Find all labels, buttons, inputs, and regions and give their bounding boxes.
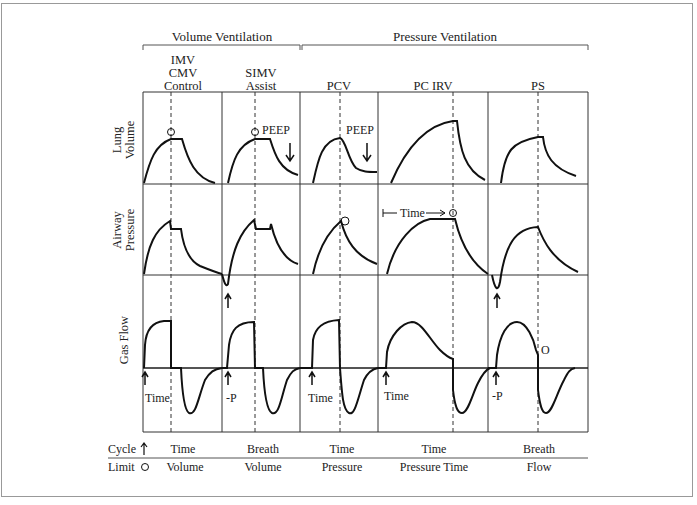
time-span-annotation: Time	[383, 206, 445, 220]
trigger-label-pc-irv: Time	[384, 389, 409, 403]
limit-value-pcv: Pressure	[322, 460, 363, 474]
limit-marker-pcv	[341, 217, 349, 225]
mode-label-assist: Assist	[246, 79, 277, 93]
cycle-value-simv: Breath	[247, 442, 279, 456]
cycle-value-imv: Time	[171, 442, 196, 456]
group-label-volume: Volume Ventilation	[172, 29, 273, 44]
trigger-arrow-pc-irv-icon	[383, 372, 389, 385]
mode-label-cmv: CMV	[169, 66, 197, 80]
time-span-arrow-icon	[426, 210, 445, 216]
airway-pressure-curve-pcv	[313, 221, 377, 274]
svg-text:Volume: Volume	[123, 120, 137, 159]
trigger-label-imv: Time	[145, 391, 170, 405]
limit-value-pc-irv: Pressure Time	[400, 460, 468, 474]
lung-volume-curve-imv	[144, 139, 215, 183]
lung-volume-curve-pc-irv	[391, 121, 485, 183]
trigger-label-ps: -P	[492, 389, 503, 403]
time-span-label: Time	[400, 206, 425, 220]
svg-text:Gas Flow: Gas Flow	[117, 316, 131, 364]
gas-flow-curves	[144, 320, 575, 413]
limit-markers-volume	[168, 129, 259, 136]
trigger-arrow-simv-flow-icon	[225, 372, 231, 385]
svg-text:Pressure: Pressure	[123, 208, 137, 251]
peep-arrow-pcv-icon	[363, 143, 371, 161]
cycle-label: Cycle	[108, 442, 136, 456]
mode-label-ps: PS	[531, 79, 545, 93]
row-label-gas-flow: Gas Flow	[117, 316, 131, 364]
cycle-value-ps: Breath	[523, 442, 555, 456]
limit-label: Limit	[108, 460, 135, 474]
row-label-airway-pressure: Airway Pressure	[110, 208, 137, 251]
airway-pressure-curves	[144, 219, 578, 288]
trigger-arrow-ps-flow-icon	[493, 372, 499, 385]
svg-text:Lung: Lung	[110, 126, 124, 153]
cycle-dashed-lines	[171, 92, 538, 432]
mode-label-simv: SIMV	[245, 66, 276, 80]
cycle-value-pcv: Time	[330, 442, 355, 456]
trigger-label-simv: -P	[226, 391, 237, 405]
limit-markers-pressure	[341, 210, 457, 226]
airway-pressure-curve-imv	[144, 221, 222, 274]
group-bracket-volume	[143, 45, 300, 50]
group-bracket-pressure	[302, 45, 588, 50]
row-label-lung-volume: Lung Volume	[110, 120, 137, 159]
trigger-arrows-flow	[142, 372, 499, 385]
peep-arrow-simv-icon	[286, 143, 294, 161]
trigger-arrow-ps-icon	[494, 294, 500, 308]
peep-label-pcv: PEEP	[346, 123, 374, 137]
ventilation-diagram: Volume Ventilation Pressure Ventilation …	[0, 0, 697, 505]
trigger-label-pcv: Time	[308, 391, 333, 405]
mode-label-control: Control	[164, 79, 203, 93]
mode-label-pc-irv: PC IRV	[414, 79, 453, 93]
peep-label-simv: PEEP	[262, 123, 290, 137]
trigger-arrow-pcv-icon	[309, 372, 315, 385]
trigger-arrow-simv-icon	[225, 294, 231, 308]
mode-label-pcv: PCV	[327, 79, 351, 93]
cycle-value-pc-irv: Time	[422, 442, 447, 456]
airway-pressure-curve-ps	[492, 227, 578, 288]
limit-circle-icon	[142, 464, 149, 471]
limit-value-ps: Flow	[527, 460, 552, 474]
limit-value-imv: Volume	[166, 460, 203, 474]
mode-label-imv: IMV	[171, 53, 195, 67]
trigger-arrows-pressure	[225, 294, 500, 308]
limit-value-simv: Volume	[244, 460, 281, 474]
group-label-pressure: Pressure Ventilation	[393, 29, 498, 44]
airway-pressure-curve-pc-irv	[387, 219, 488, 274]
cycle-arrow-icon	[141, 443, 147, 455]
svg-text:Airway: Airway	[110, 211, 124, 249]
limit-marker-ps: O	[541, 343, 550, 357]
peep-arrows	[286, 143, 371, 161]
lung-volume-curve-simv	[228, 139, 298, 183]
